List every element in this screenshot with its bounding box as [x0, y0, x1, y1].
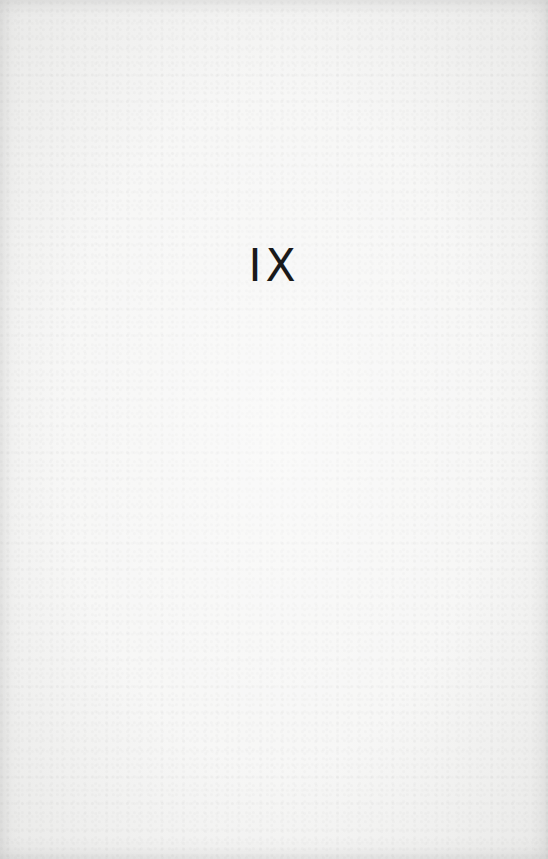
chapter-number-heading: IX [0, 243, 548, 289]
book-page: IX [0, 0, 548, 859]
